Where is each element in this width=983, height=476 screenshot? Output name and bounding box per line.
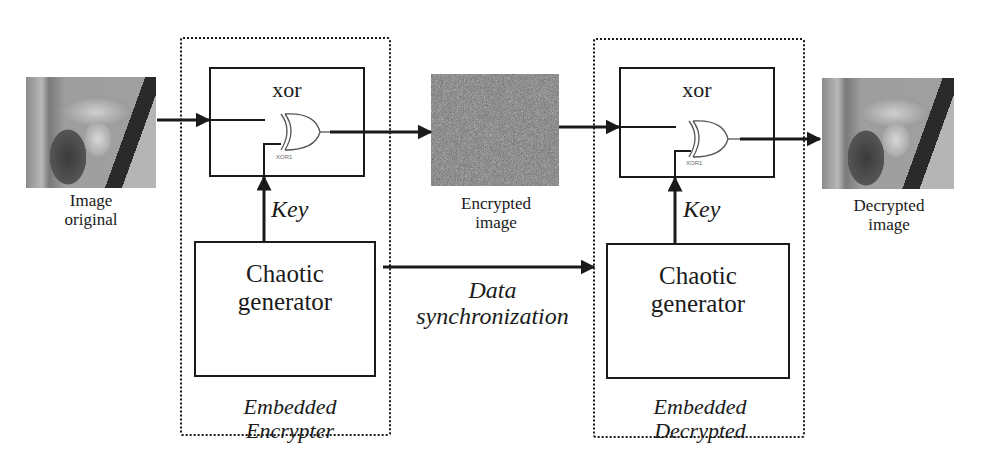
xor-gate-icon — [689, 121, 740, 157]
connectors: XOR1 XOR1 — [0, 0, 983, 476]
gate-tag: XOR1 — [276, 154, 293, 160]
xor-gate-icon — [281, 114, 330, 150]
gate-tag: XOR1 — [686, 160, 703, 166]
